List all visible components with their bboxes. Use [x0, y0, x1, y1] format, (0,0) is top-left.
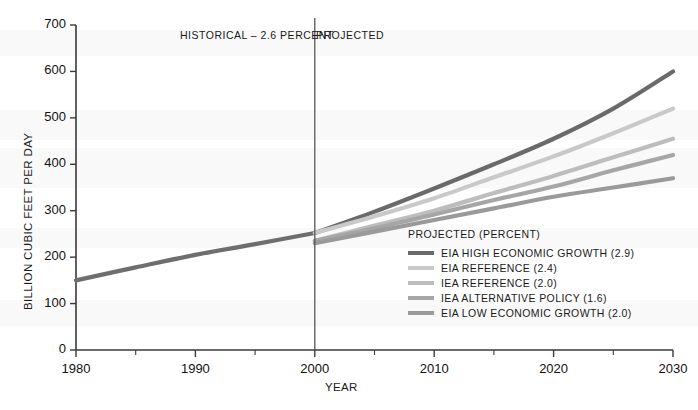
x-tick-label: 1990	[165, 361, 225, 376]
historical-period-label: HISTORICAL – 2.6 PERCENT	[180, 29, 334, 41]
projected-period-label: PROJECTED	[316, 29, 384, 41]
x-tick-label: 2030	[643, 361, 698, 376]
x-tick-label: 2000	[285, 361, 345, 376]
chart-legend: PROJECTED (PERCENT) EIA HIGH ECONOMIC GR…	[408, 228, 634, 320]
legend-item: IEA ALTERNATIVE POLICY (1.6)	[408, 290, 634, 305]
legend-item: EIA LOW ECONOMIC GROWTH (2.0)	[408, 305, 634, 320]
y-tick-label: 400	[20, 155, 66, 170]
series-line-historical	[76, 233, 315, 280]
legend-swatch	[408, 296, 434, 300]
legend-label: EIA REFERENCE (2.4)	[441, 262, 557, 274]
y-tick-label: 200	[20, 248, 66, 263]
legend-swatch	[408, 266, 434, 270]
legend-label: EIA HIGH ECONOMIC GROWTH (2.9)	[441, 247, 634, 259]
y-tick-label: 600	[20, 62, 66, 77]
y-tick-label: 0	[20, 341, 66, 356]
chart-container: BILLION CUBIC FEET PER DAY 0100200300400…	[0, 0, 698, 410]
legend-item: IEA REFERENCE (2.0)	[408, 275, 634, 290]
plot-area	[0, 0, 698, 410]
legend-item: EIA REFERENCE (2.4)	[408, 260, 634, 275]
x-tick-label: 1980	[46, 361, 106, 376]
legend-label: IEA REFERENCE (2.0)	[441, 277, 557, 289]
legend-swatch	[408, 251, 434, 255]
x-tick-label: 2020	[524, 361, 584, 376]
legend-item: EIA HIGH ECONOMIC GROWTH (2.9)	[408, 245, 634, 260]
series-line-iea-reference	[315, 139, 673, 241]
legend-swatch	[408, 281, 434, 285]
y-tick-label: 100	[20, 295, 66, 310]
legend-title: PROJECTED (PERCENT)	[408, 228, 634, 240]
x-tick-label: 2010	[404, 361, 464, 376]
legend-swatch	[408, 311, 434, 315]
legend-label: IEA ALTERNATIVE POLICY (1.6)	[441, 292, 607, 304]
y-tick-label: 700	[20, 16, 66, 31]
legend-label: EIA LOW ECONOMIC GROWTH (2.0)	[441, 307, 632, 319]
x-axis-title: YEAR	[325, 381, 358, 393]
y-tick-label: 300	[20, 202, 66, 217]
y-tick-label: 500	[20, 109, 66, 124]
